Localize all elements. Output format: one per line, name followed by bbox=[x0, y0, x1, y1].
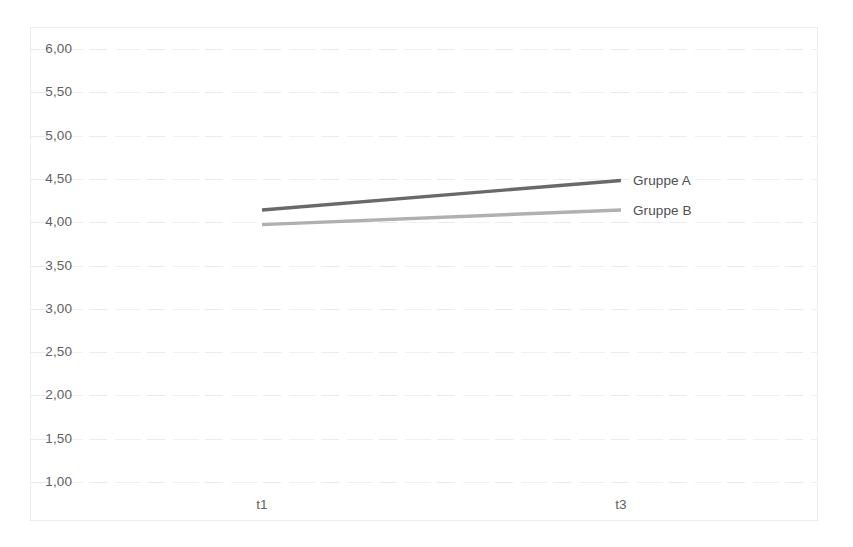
series-label-gruppe-b: Gruppe B bbox=[633, 202, 692, 217]
y-axis-tick-label: 6,00 bbox=[45, 41, 72, 56]
gridline bbox=[31, 352, 817, 353]
y-axis-tick-label: 1,00 bbox=[45, 474, 72, 489]
gridline bbox=[31, 266, 817, 267]
y-axis-tick-label: 2,00 bbox=[45, 387, 72, 402]
x-axis-tick-label: t1 bbox=[256, 497, 267, 512]
plot-area-frame bbox=[30, 27, 818, 521]
series-label-gruppe-a: Gruppe A bbox=[633, 173, 691, 188]
x-axis: t1t3 bbox=[0, 489, 853, 519]
y-axis-tick-label: 2,50 bbox=[45, 344, 72, 359]
y-axis-tick-label: 5,50 bbox=[45, 84, 72, 99]
gridline bbox=[31, 482, 817, 483]
gridline bbox=[31, 92, 817, 93]
y-axis-tick-label: 1,50 bbox=[45, 430, 72, 445]
gridline bbox=[31, 309, 817, 310]
gridline bbox=[31, 439, 817, 440]
line-chart: 6,005,505,004,504,003,503,002,502,001,50… bbox=[0, 0, 853, 547]
gridline bbox=[31, 395, 817, 396]
gridline bbox=[31, 222, 817, 223]
y-axis-tick-label: 4,50 bbox=[45, 170, 72, 185]
gridline bbox=[31, 179, 817, 180]
x-axis-tick-label: t3 bbox=[615, 497, 626, 512]
y-axis-tick-label: 3,50 bbox=[45, 257, 72, 272]
gridline bbox=[31, 49, 817, 50]
gridline bbox=[31, 136, 817, 137]
y-axis-tick-label: 5,00 bbox=[45, 127, 72, 142]
y-axis: 6,005,505,004,504,003,503,002,502,001,50… bbox=[0, 27, 72, 521]
y-axis-tick-label: 3,00 bbox=[45, 300, 72, 315]
y-axis-tick-label: 4,00 bbox=[45, 214, 72, 229]
